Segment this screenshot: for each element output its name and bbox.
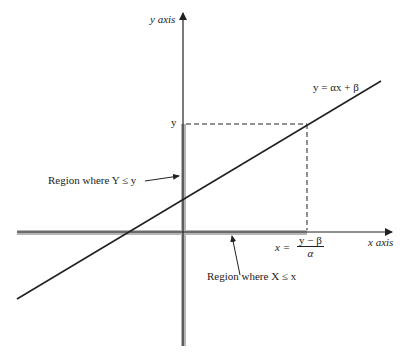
x-solution-denominator: α xyxy=(297,247,324,260)
y-region-pointer xyxy=(145,176,179,181)
y-axis-label: y axis xyxy=(150,13,175,25)
x-axis-label: x axis xyxy=(368,236,393,248)
diagram-canvas: y axis x axis y = αx + β y Region where … xyxy=(0,0,407,354)
y-value-label: y xyxy=(171,116,177,128)
line-y-alpha-x-beta xyxy=(17,81,381,299)
x-region-label: Region where X ≤ x xyxy=(207,270,296,282)
x-solution-lhs: x = xyxy=(275,241,290,253)
x-solution-numerator: y − β xyxy=(297,234,324,247)
x-solution-fraction: y − β α xyxy=(297,234,324,260)
line-equation-label: y = αx + β xyxy=(313,81,359,93)
y-region-label: Region where Y ≤ y xyxy=(48,174,136,186)
